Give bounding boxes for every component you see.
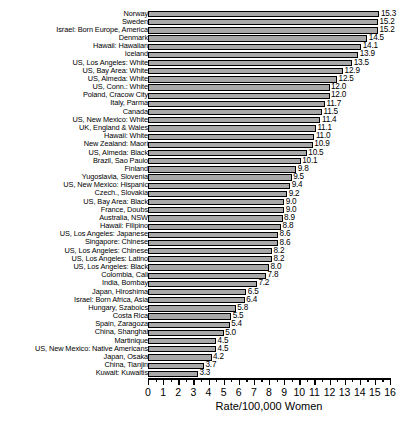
x-tick-major: [330, 378, 331, 385]
bar-row: Costa Rica5.5: [0, 313, 404, 321]
x-tick-minor: [307, 378, 308, 382]
bar: [148, 289, 246, 295]
bar: [148, 60, 352, 66]
x-tick-minor: [216, 378, 217, 382]
bar-row: US, Los Angeles: Chinese8.2: [0, 247, 404, 255]
bar: [148, 346, 216, 352]
bar: [148, 166, 296, 172]
bar-row: Spain, Zaragoza5.4: [0, 321, 404, 329]
bar-row: France, Doubs9.0: [0, 206, 404, 214]
x-tick-minor: [337, 378, 338, 382]
bar: [148, 199, 284, 205]
bar-row: Japan, Hiroshima6.5: [0, 288, 404, 296]
bar: [148, 363, 204, 369]
x-tick-minor: [382, 378, 383, 382]
bar: [148, 101, 325, 107]
bar-row: US, New Mexico: Hispanic9.4: [0, 182, 404, 190]
x-tick-major: [269, 378, 270, 385]
bar: [148, 256, 272, 262]
bar-row: Colombia, Cali7.8: [0, 272, 404, 280]
bar: [148, 224, 281, 230]
bar-row: Singapore: Chinese8.6: [0, 239, 404, 247]
bar: [148, 19, 378, 25]
bar: [148, 109, 322, 115]
bar-row: Australia, NSW8.9: [0, 214, 404, 222]
bar-row: Iceland13.9: [0, 51, 404, 59]
bar: [148, 297, 245, 303]
bar: [148, 76, 337, 82]
bar: [148, 248, 272, 254]
x-tick-minor: [322, 378, 323, 382]
bar-row: China, Shanghai5.0: [0, 329, 404, 337]
bar: [148, 158, 301, 164]
bar: [148, 281, 257, 287]
bar-row: US, Los Angeles: Black8.0: [0, 264, 404, 272]
category-label: Kuwait: Kuwaitis: [96, 369, 148, 377]
bar: [148, 84, 330, 90]
x-tick-major: [360, 378, 361, 385]
bar-row: Israel: Born Africa, Asia6.4: [0, 296, 404, 304]
bar-row: US, Los Angeles: Japanese8.6: [0, 231, 404, 239]
x-tick-major: [314, 378, 315, 385]
x-tick-major: [148, 378, 149, 385]
value-label: 7.2: [258, 278, 269, 287]
bar: [148, 142, 313, 148]
bar: [148, 207, 284, 213]
bar-row: US, New Mexico: White11.4: [0, 116, 404, 124]
bar-row: Denmark14.5: [0, 35, 404, 43]
x-tick-minor: [352, 378, 353, 382]
bar: [148, 183, 290, 189]
x-tick-label: 11: [309, 386, 320, 398]
bar-row: India, Bombay7.2: [0, 280, 404, 288]
x-tick-label: 10: [293, 386, 305, 398]
x-tick-minor: [201, 378, 202, 382]
bar: [148, 27, 378, 33]
x-tick-major: [163, 378, 164, 385]
x-tick-label: 15: [369, 386, 381, 398]
bar-row: US, Los Angeles: Latino8.2: [0, 255, 404, 263]
x-tick-label: 7: [251, 386, 257, 398]
bar-row: UK, England & Wales11.1: [0, 124, 404, 132]
x-tick-major: [390, 378, 391, 385]
x-tick-label: 8: [266, 386, 272, 398]
x-tick-major: [224, 378, 225, 385]
x-tick-minor: [277, 378, 278, 382]
x-tick-label: 2: [175, 386, 181, 398]
x-tick-major: [284, 378, 285, 385]
bar: [148, 125, 316, 131]
bar: [148, 313, 231, 319]
bar-row: US, Bay Area: Black9.0: [0, 198, 404, 206]
x-tick-label: 6: [236, 386, 242, 398]
bar-row: Finland9.8: [0, 165, 404, 173]
x-tick-label: 1: [160, 386, 166, 398]
bar-row: Norway15.3: [0, 10, 404, 18]
x-tick-label: 12: [324, 386, 336, 398]
bar: [148, 240, 278, 246]
bar: [148, 305, 236, 311]
bar-row: US, Almeda: Black10.5: [0, 149, 404, 157]
x-tick-label: 14: [354, 386, 366, 398]
x-tick-minor: [367, 378, 368, 382]
x-tick-minor: [231, 378, 232, 382]
bar-row: US, Los Angeles: White13.5: [0, 59, 404, 67]
bar: [148, 52, 358, 58]
x-tick-label: 5: [221, 386, 227, 398]
bar: [148, 44, 361, 50]
bar-row: US, New Mexico: Native Americans4.5: [0, 345, 404, 353]
bar: [148, 338, 216, 344]
bar: [148, 134, 314, 140]
bar: [148, 35, 367, 41]
x-tick-label: 9: [281, 386, 287, 398]
bar-row: Canada11.5: [0, 108, 404, 116]
bar-row: Japan, Osaka4.2: [0, 353, 404, 361]
x-tick-major: [375, 378, 376, 385]
x-axis-title: Rate/100,000 Women: [148, 400, 390, 412]
x-tick-minor: [156, 378, 157, 382]
bar-row: Italy, Parma11.7: [0, 100, 404, 108]
bar: [148, 68, 343, 74]
bar: [148, 117, 320, 123]
bar: [148, 264, 269, 270]
bar: [148, 150, 307, 156]
bar-row: Hawaii: Hawaiian14.1: [0, 43, 404, 51]
bar-row: New Zealand: Maori10.9: [0, 141, 404, 149]
